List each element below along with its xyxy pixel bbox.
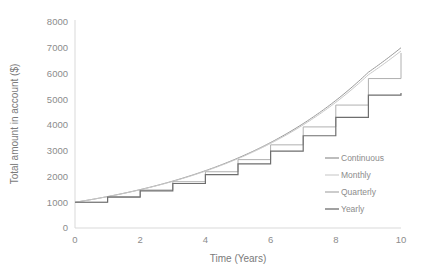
x-tick-label: 2 xyxy=(138,234,143,245)
series-line-yearly xyxy=(75,93,401,202)
y-tick-label: 2000 xyxy=(47,171,68,182)
x-tick-label: 4 xyxy=(203,234,208,245)
x-tick-label: 10 xyxy=(396,234,407,245)
x-tick-label: 8 xyxy=(333,234,338,245)
x-axis-title: Time (Years) xyxy=(210,253,267,264)
y-tick-label: 5000 xyxy=(47,94,68,105)
x-tick-label: 0 xyxy=(72,234,77,245)
y-tick-label: 3000 xyxy=(47,145,68,156)
y-tick-label: 4000 xyxy=(47,119,68,130)
y-tick-label: 8000 xyxy=(47,16,68,27)
y-tick-label: 6000 xyxy=(47,68,68,79)
y-tick-label: 1000 xyxy=(47,197,68,208)
x-tick-label: 6 xyxy=(268,234,273,245)
chart-legend: ContinuousMonthlyQuarterlyYearly xyxy=(325,153,384,214)
compound-interest-chart: Total amount in account ($) 010002000300… xyxy=(0,0,422,277)
y-axis-title: Total amount in account ($) xyxy=(9,64,20,185)
legend-label-monthly: Monthly xyxy=(341,170,372,180)
y-tick-label: 7000 xyxy=(47,42,68,53)
y-axis-tick-labels: 010002000300040005000600070008000 xyxy=(47,16,68,233)
legend-label-yearly: Yearly xyxy=(341,204,365,214)
x-axis-tick-labels: 0246810 xyxy=(72,234,406,245)
y-tick-label: 0 xyxy=(63,222,68,233)
legend-label-quarterly: Quarterly xyxy=(341,187,377,197)
legend-label-continuous: Continuous xyxy=(341,153,384,163)
chart-container: Total amount in account ($) 010002000300… xyxy=(0,0,422,277)
